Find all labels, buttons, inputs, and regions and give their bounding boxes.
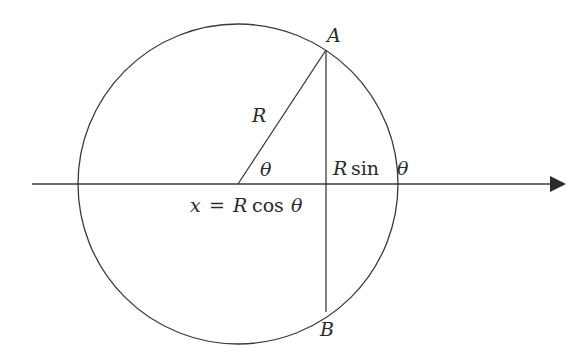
- label-horizontal-r: R: [232, 194, 247, 216]
- label-radius: R: [251, 104, 266, 126]
- label-vertical-theta: θ: [397, 157, 409, 179]
- arrowhead-icon: [550, 176, 566, 192]
- label-angle: θ: [260, 158, 272, 180]
- label-vertical-sin: sin: [351, 157, 379, 179]
- label-horizontal-theta: θ: [291, 194, 303, 216]
- label-horizontal-cos: cos: [252, 194, 284, 216]
- label-horizontal-x: x: [190, 194, 201, 216]
- label-point-a: A: [325, 24, 341, 46]
- label-vertical-r: R: [332, 157, 347, 179]
- label-x-eq-r-cos-theta: x = R cos θ: [190, 194, 303, 216]
- label-r-sin-theta: R sin θ: [332, 157, 409, 179]
- label-horizontal-eq: =: [209, 194, 225, 216]
- label-point-b: B: [319, 318, 334, 340]
- circle-diagram: A B R θ R sin θ x = R cos θ: [0, 0, 584, 358]
